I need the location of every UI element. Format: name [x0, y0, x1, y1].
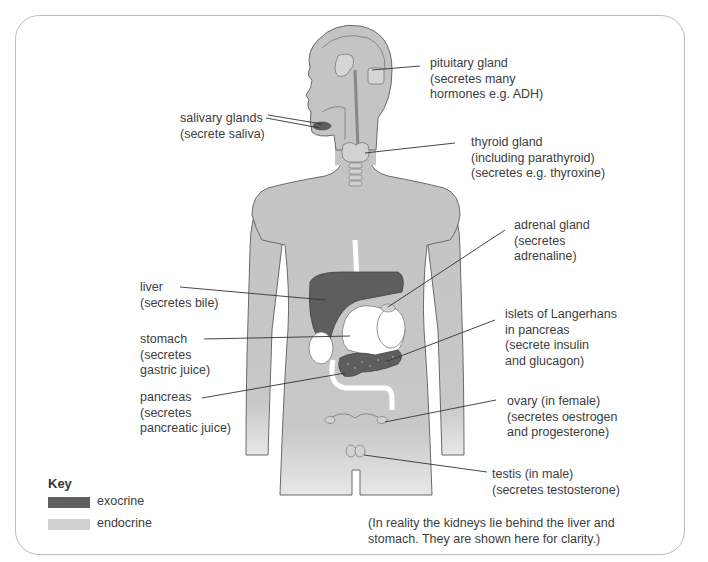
label-salivary-glands: salivary glands (secrete saliva): [180, 111, 265, 142]
kidney-note: (In reality the kidneys lie behind the l…: [368, 516, 615, 547]
label-adrenal-gland: adrenal gland (secretes adrenaline): [514, 218, 590, 265]
thyroid-gland: [342, 143, 369, 163]
label-testis: testis (in male) (secretes testosterone): [492, 467, 620, 498]
left-testis: [346, 445, 356, 457]
adrenal-gland: [381, 304, 395, 312]
label-pancreas: pancreas (secretes pancreatic juice): [140, 390, 231, 437]
label-thyroid-gland: thyroid gland (including parathyroid) (s…: [471, 135, 605, 182]
right-testis: [355, 445, 365, 457]
label-liver: liver (secretes bile): [140, 280, 219, 311]
key-swatch-exocrine: [48, 497, 90, 508]
label-ovary: ovary (in female) (secretes oestrogen an…: [507, 394, 617, 441]
label-pituitary-gland: pituitary gland (secretes many hormones …: [430, 56, 543, 103]
right-kidney: [377, 308, 405, 348]
right-ovary: [377, 417, 387, 424]
head: [306, 25, 392, 150]
key-label-endocrine: endocrine: [97, 516, 152, 530]
label-islets-of-langerhans: islets of Langerhans in pancreas (secret…: [505, 307, 617, 369]
key-swatch-endocrine: [48, 519, 90, 530]
key-label-exocrine: exocrine: [97, 494, 144, 508]
key-title: Key: [48, 476, 72, 491]
left-ovary: [325, 417, 335, 424]
pituitary-box: [368, 68, 384, 84]
label-stomach: stomach (secretes gastric juice): [140, 332, 210, 379]
